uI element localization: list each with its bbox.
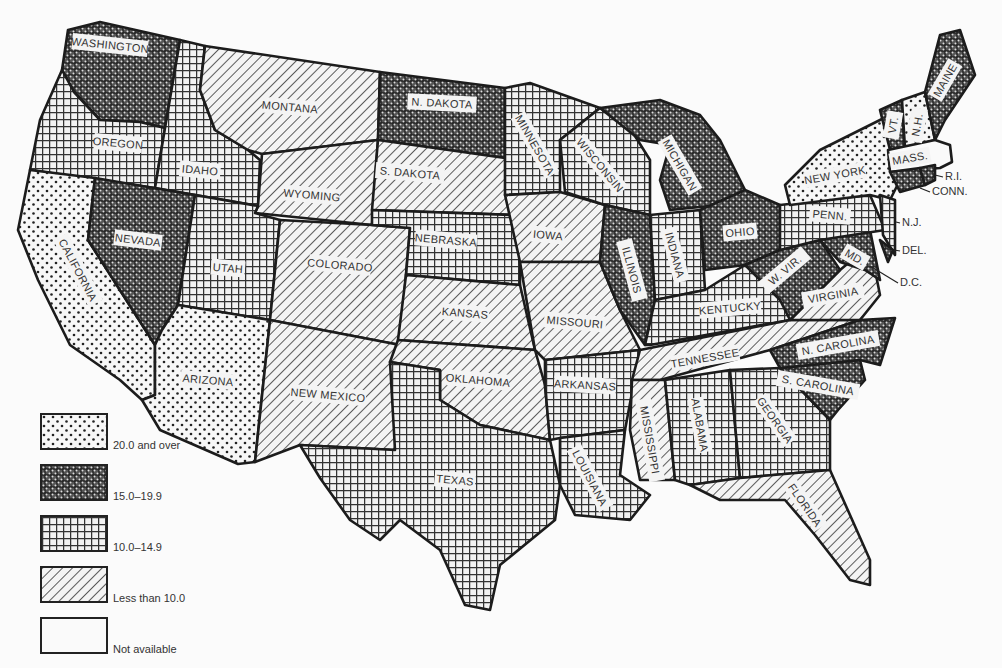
state-label-ar: ARKANSAS	[553, 375, 616, 394]
state-ar	[545, 350, 640, 440]
state-fl	[690, 470, 870, 585]
legend-swatch-blank	[40, 617, 108, 654]
callout-ri: R.I.	[935, 170, 962, 182]
legend-label: Not available	[113, 643, 177, 655]
svg-text:DEL.: DEL.	[902, 244, 926, 256]
callout-de: DEL.	[894, 244, 926, 256]
svg-text:N.J.: N.J.	[902, 216, 922, 228]
legend-label: 15.0–19.9	[113, 490, 162, 502]
svg-text:R.I.: R.I.	[945, 170, 962, 182]
state-label-ut: UTAH	[210, 259, 245, 278]
svg-text:OHIO: OHIO	[725, 225, 755, 240]
state-label-ia: IOWA	[530, 226, 565, 245]
svg-text:CONN.: CONN.	[932, 185, 967, 197]
state-ia	[505, 192, 605, 262]
legend-swatch-grid	[40, 515, 108, 552]
legend-swatch-dots	[40, 413, 108, 450]
state-ny	[785, 115, 900, 205]
legend-label: Less than 10.0	[113, 592, 185, 604]
callout-nj: N.J.	[896, 216, 922, 228]
callout-arrow-icon	[896, 222, 900, 223]
state-label-oh: OHIO	[722, 223, 757, 242]
legend-swatch-diagonal-hatch	[40, 566, 108, 603]
state-wy	[255, 140, 378, 225]
legend-label: 20.0 and over	[113, 439, 180, 451]
callout-arrow-icon	[920, 188, 930, 192]
us-choropleth-map: WASHINGTONOREGONCALIFORNIAIDAHONEVADAMON…	[0, 0, 1002, 668]
callout-ct: CONN.	[920, 185, 967, 197]
svg-text:D.C.: D.C.	[900, 276, 922, 288]
legend-label: 10.0–14.9	[113, 541, 162, 553]
legend-swatch-dense-crosshatch	[40, 464, 108, 501]
